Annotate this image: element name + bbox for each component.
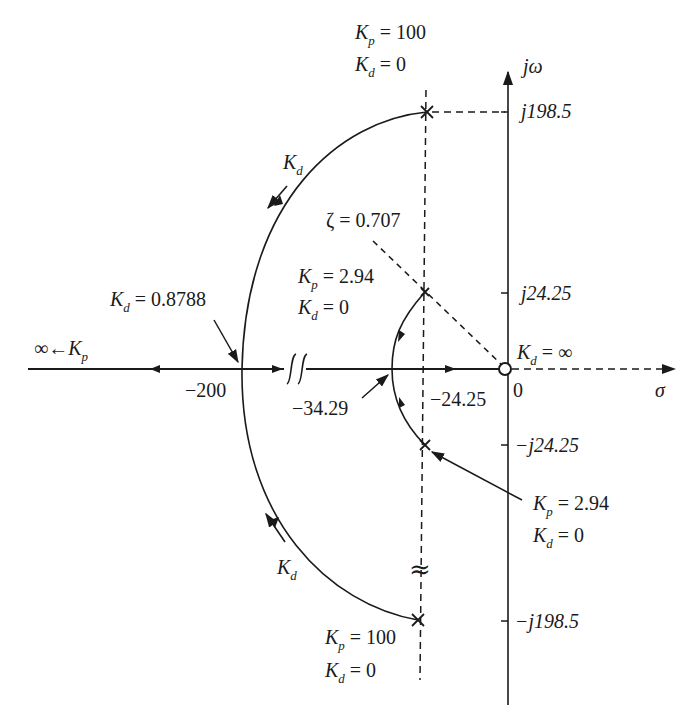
label-real-axis: σ bbox=[655, 380, 665, 400]
tick-minus-24: −24.25 bbox=[430, 389, 486, 409]
tick-j198: j198.5 bbox=[521, 101, 572, 121]
label-imag-axis: jω bbox=[523, 56, 543, 76]
label-lower-small-pole-kp: Kp = 2.94 bbox=[533, 493, 609, 513]
label-zero-kd: Kd = ∞ bbox=[517, 342, 572, 362]
tick-minus-j198: −j198.5 bbox=[515, 611, 579, 631]
zeta-line bbox=[373, 241, 502, 365]
tick-minus-j24: −j24.25 bbox=[515, 435, 579, 455]
tick-j24: j24.25 bbox=[521, 283, 572, 303]
label-zeta: ζ = 0.707 bbox=[326, 210, 401, 230]
label-breakin-kd: Kd = 0.8788 bbox=[110, 289, 206, 309]
label-small-pole-kp: Kp = 2.94 bbox=[298, 266, 374, 286]
label-origin: 0 bbox=[513, 380, 523, 400]
tick-minus-34: −34.29 bbox=[292, 398, 348, 418]
label-lower-small-pole-kd: Kd = 0 bbox=[533, 525, 584, 545]
label-kd-upper: Kd bbox=[283, 152, 303, 172]
label-top-pole-kp: Kp = 100 bbox=[355, 22, 426, 42]
label-small-pole-kd: Kd = 0 bbox=[298, 297, 349, 317]
svg-text:≈: ≈ bbox=[409, 554, 431, 584]
label-bottom-pole-kd: Kd = 0 bbox=[325, 660, 376, 680]
label-top-pole-kd: Kd = 0 bbox=[355, 54, 406, 74]
tick-minus-200: −200 bbox=[185, 380, 226, 400]
root-locus-plot: ≈ bbox=[0, 0, 698, 723]
label-bottom-pole-kp: Kp = 100 bbox=[325, 627, 396, 647]
label-kp-infinity: ∞←Kp bbox=[34, 338, 88, 358]
vertical-dashed-line bbox=[420, 90, 426, 680]
large-locus-arc bbox=[242, 112, 427, 620]
label-kd-lower: Kd bbox=[277, 557, 297, 577]
